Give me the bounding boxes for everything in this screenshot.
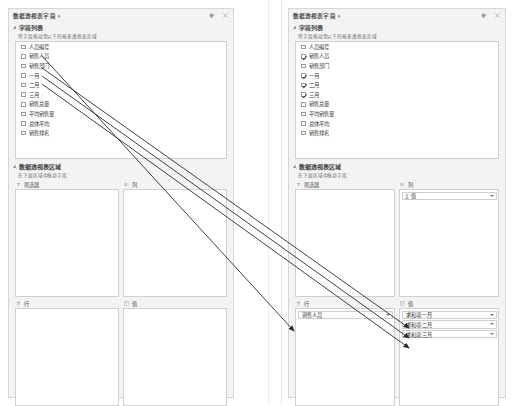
panel-title: 数据透视表字段▾ — [13, 12, 60, 20]
area-columns-dropzone[interactable] — [123, 189, 227, 297]
field-list-item[interactable]: 总体平均 — [296, 119, 498, 129]
field-list-item[interactable]: 销售总量 — [16, 100, 226, 110]
areas-grid-bottom-before: 行值 — [15, 299, 227, 406]
gear-icon[interactable] — [480, 12, 487, 19]
area-filters-dropzone[interactable] — [15, 189, 119, 297]
field-checkbox[interactable] — [301, 83, 306, 88]
area-rows-dropzone[interactable] — [15, 308, 119, 406]
field-list-item[interactable]: 销售部门 — [16, 61, 226, 71]
field-checkbox[interactable] — [21, 54, 26, 59]
close-icon[interactable] — [494, 12, 501, 19]
field-list-item[interactable]: 三月 — [16, 90, 226, 100]
field-list-item[interactable]: 三月 — [296, 90, 498, 100]
field-checkbox[interactable] — [301, 73, 306, 78]
field-checkbox[interactable] — [301, 102, 306, 107]
area-values-title: 值 — [132, 300, 137, 307]
field-checkbox[interactable] — [21, 73, 26, 78]
area-columns-title: 列 — [408, 181, 413, 188]
field-checkbox[interactable] — [21, 102, 26, 107]
field-list-item[interactable]: 销售排名 — [16, 128, 226, 138]
chevron-down-icon[interactable] — [490, 323, 494, 325]
field-list-item[interactable]: 一月 — [296, 71, 498, 81]
rows-icon — [296, 301, 301, 306]
area-field-pill[interactable]: 求和项:二月 — [402, 320, 497, 328]
field-checkbox[interactable] — [21, 112, 26, 117]
field-list-item[interactable]: 销售部门 — [296, 61, 498, 71]
rows-icon — [16, 301, 21, 306]
chevron-down-icon[interactable] — [490, 314, 494, 316]
area-field-pill[interactable]: 销售人员 — [298, 311, 393, 319]
field-checkbox[interactable] — [301, 64, 306, 69]
field-checkbox[interactable] — [21, 131, 26, 136]
area-filters-title: 筛选器 — [24, 181, 39, 188]
area-values-title: 值 — [408, 300, 413, 307]
values-icon — [400, 301, 405, 306]
field-list-box-after[interactable]: 人员编号销售人员销售部门一月二月三月销售总量平均销售量总体平均销售排名 — [295, 41, 499, 159]
field-label: 三月 — [29, 91, 39, 99]
area-columns-header: 列 — [399, 180, 499, 189]
area-filters-dropzone[interactable] — [295, 189, 395, 297]
area-values-dropzone[interactable]: 求和项:一月求和项:二月求和项:三月 — [399, 308, 499, 406]
field-checkbox[interactable] — [301, 45, 306, 50]
panel-header-icons — [480, 12, 501, 19]
field-label: 销售总量 — [29, 100, 49, 108]
field-list-section-header[interactable]: 字段列表 — [9, 23, 233, 32]
field-list-item[interactable]: 二月 — [296, 80, 498, 90]
field-list-item[interactable]: 二月 — [16, 80, 226, 90]
close-icon[interactable] — [222, 12, 229, 19]
collapse-triangle-icon[interactable] — [13, 25, 17, 29]
field-checkbox[interactable] — [301, 54, 306, 59]
area-field-pill[interactable]: 求和项:一月 — [402, 311, 497, 319]
field-label: 销售人员 — [309, 52, 329, 60]
areas-label: 数据透视表区域 — [299, 162, 341, 171]
areas-section-header[interactable]: 数据透视表区域 — [9, 162, 233, 171]
area-values-dropzone[interactable] — [123, 308, 227, 406]
panel-title-caret[interactable]: ▾ — [58, 13, 61, 19]
field-label: 人员编号 — [29, 43, 49, 51]
field-list-label: 字段列表 — [19, 23, 43, 32]
area-columns: 列 — [123, 180, 227, 297]
field-list-item[interactable]: 平均销售量 — [296, 109, 498, 119]
field-checkbox[interactable] — [21, 121, 26, 126]
field-list-section-header[interactable]: 字段列表 — [289, 23, 505, 32]
field-list-item[interactable]: 销售人员 — [16, 52, 226, 62]
chevron-down-icon[interactable] — [490, 333, 494, 335]
field-checkbox[interactable] — [301, 121, 306, 126]
collapse-triangle-icon[interactable] — [13, 164, 17, 168]
area-field-pill[interactable]: ∑ 值 — [402, 192, 497, 200]
collapse-triangle-icon[interactable] — [293, 25, 297, 29]
field-checkbox[interactable] — [21, 45, 26, 50]
field-list-item[interactable]: 人员编号 — [16, 42, 226, 52]
area-columns-header: 列 — [123, 180, 227, 189]
field-checkbox[interactable] — [21, 64, 26, 69]
gear-icon[interactable] — [208, 12, 215, 19]
areas-section-header[interactable]: 数据透视表区域 — [289, 162, 505, 171]
field-checkbox[interactable] — [301, 131, 306, 136]
collapse-triangle-icon[interactable] — [293, 164, 297, 168]
panel-title-caret[interactable]: ▾ — [338, 13, 341, 19]
field-list-item[interactable]: 销售排名 — [296, 128, 498, 138]
chevron-down-icon[interactable] — [490, 195, 494, 197]
area-columns-dropzone[interactable]: ∑ 值 — [399, 189, 499, 297]
area-field-pill[interactable]: 求和项:三月 — [402, 330, 497, 338]
field-label: 销售部门 — [29, 62, 49, 70]
field-list-item[interactable]: 销售总量 — [296, 100, 498, 110]
field-label: 销售部门 — [309, 62, 329, 70]
field-list-item[interactable]: 总体平均 — [16, 119, 226, 129]
field-checkbox[interactable] — [21, 92, 26, 97]
area-rows-header: 行 — [295, 299, 395, 308]
filter-icon — [16, 182, 21, 187]
chevron-down-icon[interactable] — [386, 314, 390, 316]
field-checkbox[interactable] — [301, 92, 306, 97]
field-list-item[interactable]: 销售人员 — [296, 52, 498, 62]
field-checkbox[interactable] — [301, 112, 306, 117]
field-label: 人员编号 — [309, 43, 329, 51]
areas-grid-bottom-after: 行销售人员值求和项:一月求和项:二月求和项:三月 — [295, 299, 499, 406]
area-rows-dropzone[interactable]: 销售人员 — [295, 308, 395, 406]
field-checkbox[interactable] — [21, 83, 26, 88]
area-field-pill-label: 销售人员 — [302, 311, 322, 318]
field-list-box-before[interactable]: 人员编号销售人员销售部门一月二月三月销售总量平均销售量总体平均销售排名 — [15, 41, 227, 159]
field-list-item[interactable]: 人员编号 — [296, 42, 498, 52]
field-list-item[interactable]: 一月 — [16, 71, 226, 81]
field-list-item[interactable]: 平均销售量 — [16, 109, 226, 119]
